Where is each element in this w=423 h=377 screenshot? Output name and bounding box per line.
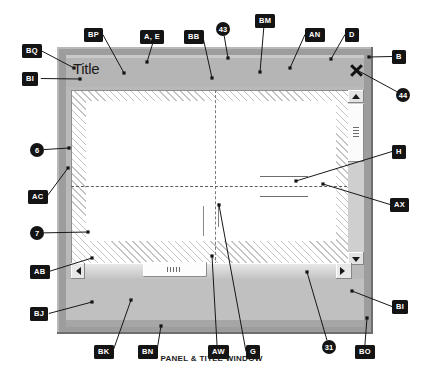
client-area-border: [71, 90, 352, 265]
callout-bm: BM: [255, 14, 275, 28]
vertical-center-guideline: [215, 90, 216, 265]
triangle-right-icon: [340, 267, 345, 275]
window-title: Title: [73, 60, 99, 77]
horizontal-center-guideline: [71, 186, 352, 187]
callout-7: 7: [30, 226, 44, 240]
figure-canvas: Title BQBPA, EBB43BMANDB44BI6AC7HAXABBJB…: [0, 0, 423, 377]
figure-caption: PANEL & TITLE WINDOW: [0, 354, 423, 363]
callout-bi_right: BI: [392, 300, 408, 314]
callout-ab: AB: [30, 265, 50, 279]
panel-bottom-shadow: [66, 320, 364, 327]
callout-ae: A, E: [140, 30, 164, 44]
horizontal-tick-mark-lower: [260, 196, 308, 197]
triangle-up-icon: [352, 94, 360, 99]
close-x-icon[interactable]: [348, 62, 364, 78]
callout-bb: BB: [184, 30, 204, 44]
callout-bq: BQ: [22, 44, 42, 58]
vertical-tick-mark-left: [203, 206, 204, 236]
callout-b: B: [392, 50, 406, 64]
horizontal-tick-mark-upper: [260, 176, 308, 177]
triangle-left-icon: [76, 267, 81, 275]
vertical-tick-mark-right: [218, 203, 219, 227]
callout-ax: AX: [390, 198, 409, 212]
grip-lines-icon: [167, 267, 181, 272]
callout-bj: BJ: [30, 307, 48, 321]
callout-ac: AC: [28, 190, 48, 204]
callout-h: H: [392, 145, 406, 159]
grip-lines-icon: [353, 127, 359, 137]
callout-bp: BP: [84, 28, 103, 42]
callout-bi_top: BI: [22, 72, 38, 86]
callout-44: 44: [396, 88, 410, 102]
callout-43: 43: [216, 22, 230, 36]
callout-31: 31: [322, 340, 336, 354]
title-bar[interactable]: [66, 55, 364, 87]
title-bar-highlight: [66, 55, 364, 58]
horizontal-scrollbar-track[interactable]: [85, 263, 336, 279]
callout-an: AN: [305, 28, 325, 42]
callout-d: D: [345, 28, 359, 42]
triangle-down-icon: [352, 257, 360, 262]
callout-6: 6: [30, 143, 44, 157]
